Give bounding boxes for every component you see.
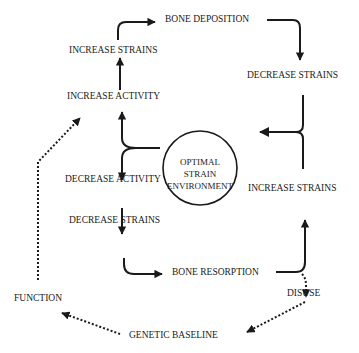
center-line-2: STRAIN <box>160 168 240 180</box>
arrow-decrease-strains-to-bone-resorption <box>124 258 162 274</box>
arrow-genetic-baseline-to-function <box>62 313 120 334</box>
arrow-function-to-increase-activity <box>38 118 80 280</box>
label-increase-activity: INCREASE ACTIVITY <box>67 91 160 101</box>
label-genetic-baseline: GENETIC BASELINE <box>129 330 218 340</box>
label-increase-strains-right: INCREASE STRAINS <box>248 183 336 193</box>
label-increase-strains-top: INCREASE STRAINS <box>69 45 157 55</box>
arrow-bone-resorption-to-increase-strains <box>276 220 305 272</box>
center-line-3: ENVIRONMENT <box>160 180 240 192</box>
label-decrease-strains-right: DECREASE STRAINS <box>247 70 338 80</box>
arrow-center-to-increase-activity <box>122 112 136 148</box>
arrow-increase-strains-to-bone-deposition <box>118 22 155 40</box>
label-bone-deposition: BONE DEPOSITION <box>165 14 249 24</box>
arrow-bone-deposition-to-decrease-strains <box>267 20 300 60</box>
arrow-disuse-to-genetic-baseline <box>247 302 305 332</box>
label-decrease-strains-left: DECREASE STRAINS <box>69 215 160 225</box>
label-decrease-activity: DECREASE ACTIVITY <box>65 174 161 184</box>
label-bone-resorption: BONE RESORPTION <box>172 267 259 277</box>
arrow-right-bracket-stem-bottom <box>296 132 303 169</box>
label-function: FUNCTION <box>14 293 62 303</box>
center-line-1: OPTIMAL <box>160 156 240 168</box>
label-disuse: DISUSE <box>287 288 320 298</box>
arrow-right-bracket-stem-top <box>296 95 303 132</box>
label-optimal-strain-environment: OPTIMAL STRAIN ENVIRONMENT <box>160 156 240 192</box>
